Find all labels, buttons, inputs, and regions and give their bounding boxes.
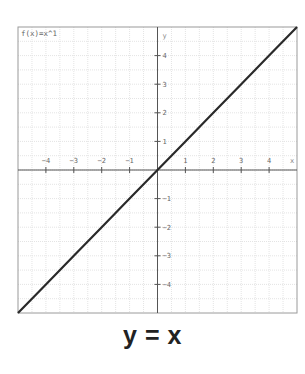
y-tick-label: −4 xyxy=(163,281,171,289)
chart-title: y = x xyxy=(0,321,305,350)
y-tick-label: 3 xyxy=(163,81,167,89)
function-plot: −4−3−2−11234−4−3−2−11234 f(x)=x^1 x y xyxy=(0,0,305,320)
x-tick-label: −1 xyxy=(125,157,133,165)
x-tick-label: 1 xyxy=(183,157,187,165)
x-tick-label: −4 xyxy=(42,157,50,165)
y-axis-label: y xyxy=(163,32,167,40)
function-label: f(x)=x^1 xyxy=(21,29,57,38)
x-tick-label: −2 xyxy=(97,157,105,165)
x-tick-label: −3 xyxy=(70,157,78,165)
x-tick-label: 2 xyxy=(211,157,215,165)
y-tick-label: −2 xyxy=(163,224,171,232)
x-tick-label: 4 xyxy=(267,157,271,165)
y-tick-label: −1 xyxy=(163,195,171,203)
y-tick-label: −3 xyxy=(163,252,171,260)
y-tick-label: 1 xyxy=(163,138,167,146)
x-tick-label: 3 xyxy=(239,157,243,165)
y-tick-label: 2 xyxy=(163,109,167,117)
y-tick-label: 4 xyxy=(163,52,167,60)
x-axis-label: x xyxy=(290,157,294,165)
